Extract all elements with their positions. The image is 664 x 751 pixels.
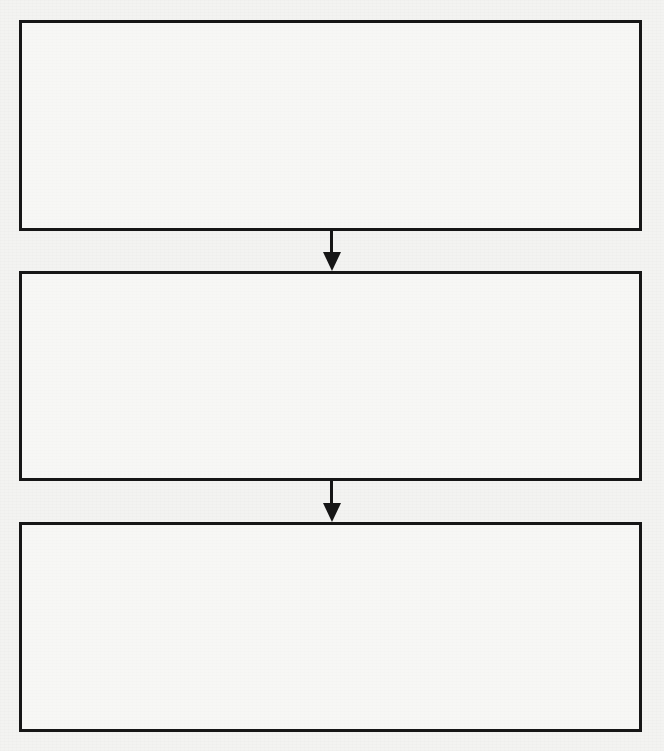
arrow-down-icon bbox=[323, 231, 341, 271]
arrow-2-head bbox=[323, 503, 341, 522]
box-1-text[interactable] bbox=[22, 23, 639, 228]
box-2-text[interactable] bbox=[22, 274, 639, 478]
flowchart-box-1[interactable] bbox=[19, 20, 642, 231]
arrow-down-icon bbox=[323, 481, 341, 522]
arrow-1-stem bbox=[330, 231, 333, 253]
flowchart-box-2[interactable] bbox=[19, 271, 642, 481]
box-3-text[interactable] bbox=[22, 525, 639, 729]
arrow-2-stem bbox=[330, 481, 333, 504]
flowchart-box-3[interactable] bbox=[19, 522, 642, 732]
arrow-1-head bbox=[323, 252, 341, 271]
